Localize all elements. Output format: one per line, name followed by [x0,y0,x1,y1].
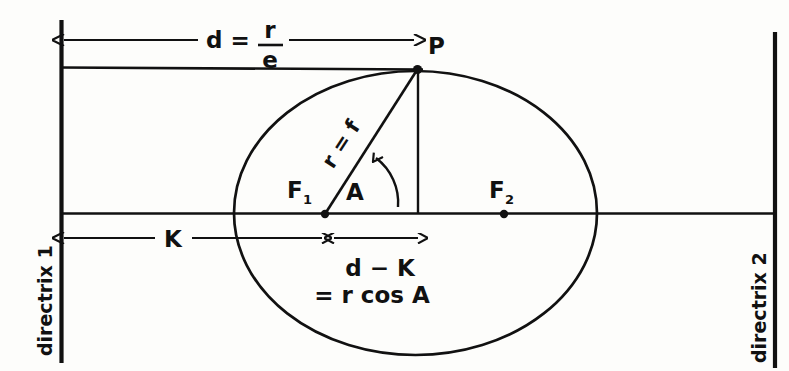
d-equation-lhs: d = [206,27,250,53]
directrix-1-label: directrix 1 [34,245,56,356]
focus-2-dot [500,210,508,218]
angle-label: A [346,179,364,205]
angle-arc [376,158,398,207]
diagram-canvas: d = r e P F 1 F 2 A r = f K d − K = r co… [0,0,789,371]
point-p-label: P [428,33,445,59]
ellipse-directrix-diagram: d = r e P F 1 F 2 A r = f K d − K = r co… [0,0,789,371]
focus-2-label: F [489,177,505,203]
focus-2-subscript: 2 [505,192,514,207]
r-cos-a-label: = r cos A [314,282,430,308]
segment-k-label: K [164,226,183,252]
focus-1-dot [321,210,329,218]
d-equation-numerator: r [264,17,276,43]
d-minus-k-label: d − K [345,255,416,281]
focus-1-subscript: 1 [303,192,312,207]
p-horizontal-line [62,68,424,70]
d-equation-denominator: e [262,47,278,73]
directrix-2-label: directrix 2 [748,252,770,363]
focus-1-label: F [287,177,303,203]
point-p-dot [413,65,422,74]
